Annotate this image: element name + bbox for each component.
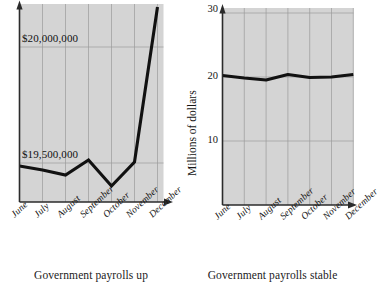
chart-panel-payrolls-stable: 30 20 10 Millions of dollars June July A… bbox=[182, 0, 363, 297]
right-y-axis-title: Millions of dollars bbox=[186, 90, 198, 176]
left-ylabel-20-million: $20,000,000 bbox=[22, 32, 78, 44]
left-chart-caption: Government payrolls up bbox=[0, 269, 182, 281]
right-chart-plot bbox=[182, 0, 363, 297]
left-ylabel-19-5-million: $19,500,000 bbox=[22, 148, 78, 160]
chart-panel-payrolls-up: $20,000,000 $19,500,000 June July August… bbox=[0, 0, 182, 297]
left-x-axis-arrow bbox=[164, 199, 173, 206]
right-chart-caption: Government payrolls stable bbox=[182, 269, 363, 281]
right-ytick-20: 20 bbox=[188, 70, 218, 81]
right-ytick-30: 30 bbox=[188, 3, 218, 14]
